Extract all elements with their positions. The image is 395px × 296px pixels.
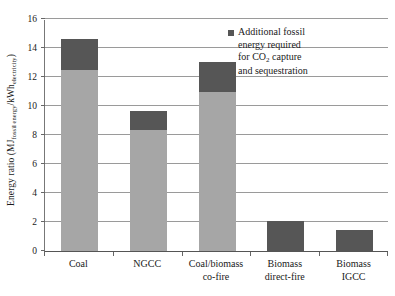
y-axis-tick-labels: 0246810121416	[20, 14, 40, 252]
legend: Additional fossil energy required for CO…	[228, 26, 393, 77]
x-tick-mark	[387, 252, 388, 256]
y-tick-label-4: 4	[32, 189, 37, 199]
y-tick-mark-4	[41, 192, 45, 193]
y-tick-label-14: 14	[28, 44, 38, 54]
bar-group[interactable]	[61, 19, 98, 251]
y-axis-title-container: Energy ratio (MJfossil energy/kWhelectri…	[0, 0, 22, 260]
y-axis-title-mid: /kWh	[6, 84, 16, 106]
x-tick-mark	[250, 252, 251, 256]
legend-swatch-capture-icon	[228, 30, 234, 36]
bar-segment[interactable]	[267, 221, 304, 251]
y-tick-mark-16	[41, 18, 45, 19]
y-tick-mark-10	[41, 105, 45, 106]
y-tick-label-10: 10	[28, 102, 38, 112]
x-tick-mark	[113, 252, 114, 256]
bar-segment[interactable]	[336, 230, 373, 251]
legend-line-3-suffix: capture	[270, 51, 302, 62]
bar-segment[interactable]	[130, 111, 167, 130]
y-tick-label-2: 2	[32, 218, 37, 228]
x-axis-category-label: Biomass direct-fire	[265, 258, 305, 283]
legend-line-4: and sequestration	[238, 65, 308, 76]
legend-line-3-prefix: for CO	[238, 51, 266, 62]
bar-segment[interactable]	[130, 130, 167, 251]
y-axis-title: Energy ratio (MJfossil energy/kWhelectri…	[6, 54, 16, 206]
y-tick-label-12: 12	[28, 73, 38, 83]
x-axis-category-label: NGCC	[133, 258, 161, 271]
bar-group[interactable]	[130, 19, 167, 251]
x-tick-mark	[319, 252, 320, 256]
y-tick-mark-2	[41, 221, 45, 222]
bar-segment[interactable]	[61, 39, 98, 70]
x-axis: CoalNGCCCoal/biomass co-fireBiomass dire…	[44, 252, 388, 296]
legend-line-3-subscript: 2	[266, 56, 270, 64]
y-tick-label-6: 6	[32, 160, 37, 170]
y-tick-label-16: 16	[28, 15, 38, 25]
y-axis-title-sub-electricity: electricity	[10, 57, 17, 84]
bar-segment[interactable]	[61, 70, 98, 251]
chart-figure: Energy ratio (MJfossil energy/kWhelectri…	[0, 0, 395, 296]
y-tick-mark-0	[41, 250, 45, 251]
x-tick-mark	[44, 252, 45, 256]
x-tick-mark	[182, 252, 183, 256]
y-tick-label-0: 0	[32, 247, 37, 257]
y-tick-mark-12	[41, 76, 45, 77]
y-axis-title-prefix: Energy ratio (MJ	[6, 140, 16, 206]
y-tick-mark-6	[41, 163, 45, 164]
x-axis-category-label: Biomass IGCC	[336, 258, 370, 283]
y-axis-title-sub-fossil: fossil energy	[10, 106, 17, 140]
x-axis-category-label: Coal/biomass co-fire	[189, 258, 243, 283]
x-axis-category-label: Coal	[69, 258, 88, 271]
y-tick-label-8: 8	[32, 131, 37, 141]
y-tick-mark-8	[41, 134, 45, 135]
legend-line-2: energy required	[238, 39, 301, 50]
legend-label-capture: Additional fossil energy required for CO…	[238, 26, 308, 77]
y-tick-mark-14	[41, 47, 45, 48]
legend-line-1: Additional fossil	[238, 26, 305, 37]
bar-segment[interactable]	[199, 92, 236, 251]
